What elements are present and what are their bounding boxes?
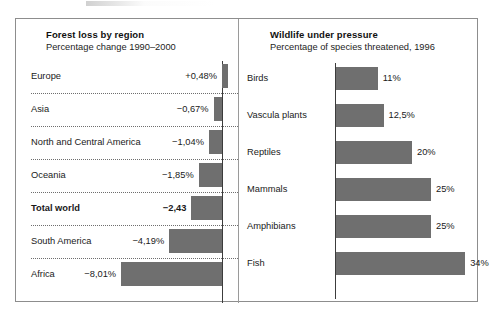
forest-loss-row-value: −1,04% bbox=[172, 137, 204, 147]
wildlife-bar bbox=[336, 141, 412, 164]
wildlife-row: Vascula plants12,5% bbox=[239, 98, 479, 135]
wildlife-row-label: Mammals bbox=[247, 184, 287, 194]
wildlife-row-value: 20% bbox=[417, 147, 436, 157]
forest-loss-row-label: Total world bbox=[31, 203, 80, 213]
wildlife-row: Fish34% bbox=[239, 246, 479, 283]
forest-loss-row-label: South America bbox=[31, 236, 91, 246]
wildlife-bar bbox=[336, 67, 378, 90]
forest-loss-row-value: −1,85% bbox=[162, 170, 194, 180]
forest-loss-row-label: Africa bbox=[31, 269, 55, 279]
wildlife-title: Wildlife under pressure bbox=[270, 29, 378, 40]
forest-loss-row: Europe+0,48% bbox=[16, 61, 238, 94]
wildlife-row-label: Amphibians bbox=[247, 221, 296, 231]
wildlife-row-value: 25% bbox=[436, 184, 455, 194]
forest-loss-plot: Europe+0,48%Asia−0,67%North and Central … bbox=[16, 61, 238, 303]
forest-loss-title: Forest loss by region bbox=[46, 29, 144, 40]
forest-loss-row: Asia−0,67% bbox=[16, 94, 238, 127]
wildlife-row-label: Birds bbox=[247, 73, 268, 83]
forest-loss-row-value: −4,19% bbox=[132, 236, 164, 246]
forest-loss-row-value: +0,48% bbox=[185, 71, 217, 81]
forest-loss-row-value: −2,43 bbox=[163, 203, 187, 213]
forest-loss-row-label: North and Central America bbox=[31, 137, 141, 147]
scan-artifact bbox=[86, 1, 216, 6]
forest-loss-subtitle: Percentage change 1990–2000 bbox=[46, 42, 176, 52]
wildlife-row-value: 12,5% bbox=[389, 110, 415, 120]
wildlife-bar bbox=[336, 104, 384, 127]
figure-frame: Forest loss by region Percentage change … bbox=[15, 18, 478, 302]
wildlife-row-value: 11% bbox=[383, 73, 401, 83]
forest-loss-bar bbox=[121, 262, 222, 286]
forest-loss-row: Africa−8,01% bbox=[16, 259, 238, 292]
forest-loss-row-label: Europe bbox=[31, 71, 61, 81]
forest-loss-panel: Forest loss by region Percentage change … bbox=[16, 19, 238, 303]
forest-loss-bar bbox=[169, 229, 222, 253]
wildlife-subtitle: Percentage of species threatened, 1996 bbox=[270, 42, 435, 52]
forest-loss-row-value: −0,67% bbox=[177, 104, 209, 114]
wildlife-row-label: Vascula plants bbox=[247, 110, 307, 120]
wildlife-row: Birds11% bbox=[239, 61, 479, 98]
wildlife-bar bbox=[336, 178, 431, 201]
wildlife-row: Amphibians25% bbox=[239, 209, 479, 246]
wildlife-panel: Wildlife under pressure Percentage of sp… bbox=[239, 19, 479, 303]
forest-loss-bar bbox=[222, 64, 228, 88]
wildlife-row-label: Fish bbox=[247, 258, 265, 268]
forest-loss-row-value: −8,01% bbox=[84, 269, 116, 279]
wildlife-row-label: Reptiles bbox=[247, 147, 281, 157]
wildlife-row: Reptiles20% bbox=[239, 135, 479, 172]
wildlife-bar bbox=[336, 215, 431, 238]
forest-loss-bar bbox=[214, 97, 222, 121]
forest-loss-bar bbox=[199, 163, 222, 187]
forest-loss-bar bbox=[209, 130, 222, 154]
wildlife-row: Mammals25% bbox=[239, 172, 479, 209]
forest-loss-bar bbox=[191, 196, 222, 220]
wildlife-bar bbox=[336, 252, 465, 275]
forest-loss-row: North and Central America−1,04% bbox=[16, 127, 238, 160]
forest-loss-row-label: Asia bbox=[31, 104, 49, 114]
wildlife-row-value: 34% bbox=[470, 258, 489, 268]
forest-loss-row: Oceania−1,85% bbox=[16, 160, 238, 193]
forest-loss-row: Total world−2,43 bbox=[16, 193, 238, 226]
forest-loss-row: South America−4,19% bbox=[16, 226, 238, 259]
forest-loss-row-label: Oceania bbox=[31, 170, 66, 180]
wildlife-plot: Birds11%Vascula plants12,5%Reptiles20%Ma… bbox=[239, 61, 479, 303]
wildlife-row-value: 25% bbox=[436, 221, 455, 231]
